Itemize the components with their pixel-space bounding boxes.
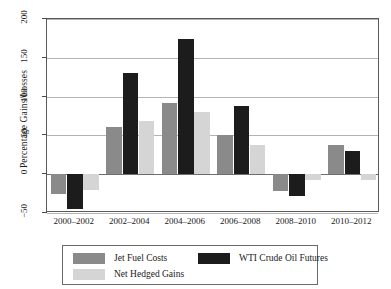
bar-group (214, 19, 270, 211)
bar (305, 174, 321, 180)
legend-label: Net Hedged Gains (114, 269, 184, 279)
bar (194, 112, 210, 174)
legend-swatch-icon (73, 269, 105, 280)
x-axis-label: 2010–2012 (324, 216, 380, 226)
y-tick-label-50: 50 (19, 116, 29, 150)
legend-item[interactable]: Net Hedged Gains (73, 267, 184, 281)
y-tick-label--50: −50 (19, 194, 29, 228)
y-tick-label-150: 150 (19, 39, 29, 73)
x-axis-label: 2004–2006 (157, 216, 213, 226)
bar (106, 127, 122, 174)
bar-group (103, 19, 159, 211)
legend-label: Jet Fuel Costs (114, 253, 167, 263)
legend-item[interactable]: Jet Fuel Costs (73, 251, 167, 265)
y-tick-mark--50 (42, 212, 47, 213)
y-tick-mark-200 (42, 18, 47, 19)
bar (123, 73, 139, 175)
legend-item[interactable]: WTI Crude Oil Futures (198, 251, 328, 265)
bar (250, 145, 266, 174)
bar-group (325, 19, 381, 211)
y-tick-label-100: 100 (19, 78, 29, 112)
bar (178, 39, 194, 174)
bar (67, 174, 83, 209)
legend-swatch-icon (198, 253, 230, 264)
bar (234, 106, 250, 174)
bar-group (269, 19, 325, 211)
x-axis-label: 2006–2008 (213, 216, 269, 226)
bar (273, 174, 289, 191)
bar (139, 121, 155, 175)
gridline--50 (47, 213, 378, 214)
chart-legend: Jet Fuel CostsNet Hedged GainsWTI Crude … (62, 245, 318, 285)
y-tick-mark-0 (42, 173, 47, 174)
x-axis-label: 2002–2004 (102, 216, 158, 226)
bar (217, 135, 233, 174)
bar (289, 174, 305, 196)
bar-chart-figure: Percentage Gains/Losses −50050100150200 … (0, 0, 391, 289)
bar-series-container (47, 19, 378, 211)
bar (162, 103, 178, 174)
legend-label: WTI Crude Oil Futures (239, 253, 328, 263)
bar (328, 145, 344, 174)
y-tick-mark-100 (42, 96, 47, 97)
x-axis-label: 2008–2010 (268, 216, 324, 226)
y-tick-label-0: 0 (19, 155, 29, 189)
bar (51, 174, 67, 193)
bar (83, 174, 99, 190)
bar-group (158, 19, 214, 211)
plot-area (46, 18, 379, 212)
y-tick-mark-50 (42, 134, 47, 135)
bar (361, 174, 377, 180)
y-tick-label-200: 200 (19, 0, 29, 34)
x-axis-label: 2000–2002 (46, 216, 102, 226)
bar (345, 151, 361, 174)
legend-swatch-icon (73, 253, 105, 264)
y-tick-mark-150 (42, 57, 47, 58)
bar-group (47, 19, 103, 211)
